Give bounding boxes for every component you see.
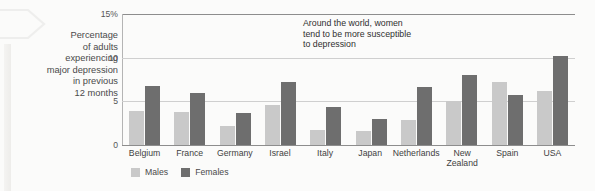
x-label-netherlands: Netherlands <box>393 148 440 168</box>
x-label-israel: Israel <box>257 148 302 168</box>
x-label-japan: Japan <box>348 148 393 168</box>
bar-israel-females <box>281 82 296 145</box>
y-tick-5: 5 <box>90 97 118 106</box>
chart-legend: MalesFemales <box>131 168 229 177</box>
bar-france-females <box>190 93 205 145</box>
females-swatch <box>181 168 190 177</box>
left-rail-decoration <box>4 44 11 191</box>
bar-netherlands-females <box>417 87 432 145</box>
bar-group-usa <box>530 14 575 145</box>
bar-germany-males <box>220 126 235 145</box>
bar-usa-males <box>537 91 552 145</box>
bar-japan-females <box>372 119 387 145</box>
bar-italy-females <box>326 107 341 145</box>
x-axis-labels: BelgiumFranceGermanyIsraelItalyJapanNeth… <box>122 148 575 168</box>
bar-new-zealand-females <box>462 75 477 145</box>
x-label-usa: USA <box>530 148 575 168</box>
bar-italy-males <box>310 130 325 145</box>
x-label-new-zealand: New Zealand <box>440 148 485 168</box>
bar-france-males <box>174 112 189 145</box>
x-label-germany: Germany <box>212 148 257 168</box>
y-tick-0: 0 <box>90 141 118 150</box>
bar-spain-females <box>508 95 523 145</box>
bar-spain-males <box>492 82 507 145</box>
bar-new-zealand-males <box>446 101 461 145</box>
y-tick-15: 15% <box>90 10 118 19</box>
bar-group-spain <box>484 14 529 145</box>
bar-group-israel <box>258 14 303 145</box>
bar-group-belgium <box>122 14 167 145</box>
males-swatch <box>131 168 140 177</box>
chart-annotation: Around the world, women tend to be more … <box>303 18 483 50</box>
bar-usa-females <box>553 56 568 145</box>
legend-item-males: Males <box>131 168 168 177</box>
y-tick-10: 10 <box>90 54 118 63</box>
bar-belgium-females <box>145 86 160 145</box>
bar-japan-males <box>356 131 371 145</box>
legend-label-males: Males <box>145 168 168 177</box>
bar-israel-males <box>265 105 280 145</box>
x-label-belgium: Belgium <box>122 148 167 168</box>
bar-germany-females <box>236 113 251 145</box>
x-label-spain: Spain <box>485 148 530 168</box>
bar-netherlands-males <box>401 120 416 145</box>
x-label-italy: Italy <box>303 148 348 168</box>
bar-belgium-males <box>129 111 144 145</box>
legend-label-females: Females <box>195 168 228 177</box>
x-label-france: France <box>167 148 212 168</box>
y-axis-ticks: 15% 10 5 0 <box>88 14 118 145</box>
x-axis-line <box>122 145 575 146</box>
bar-group-france <box>167 14 212 145</box>
chart-figure: Percentage of adults experiencing major … <box>0 0 595 191</box>
bar-group-germany <box>213 14 258 145</box>
legend-item-females: Females <box>181 168 228 177</box>
